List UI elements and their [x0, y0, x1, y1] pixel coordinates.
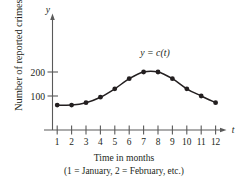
data-curve: [57, 71, 215, 105]
xtick-label: 6: [127, 137, 132, 147]
data-point: [112, 86, 117, 91]
caption-line-2: (1 = January, 2 = February, etc.): [0, 165, 248, 178]
xtick-label: 11: [197, 137, 206, 147]
ytick-label-200: 200: [31, 67, 46, 78]
data-point: [55, 103, 60, 108]
y-axis-title: Number of reported crimes: [14, 0, 25, 120]
xtick-label: 2: [69, 137, 74, 147]
y-axis-symbol: y: [45, 4, 51, 15]
ytick-label-100: 100: [31, 91, 46, 102]
data-point: [98, 95, 103, 100]
xtick-label: 10: [182, 137, 192, 147]
crime-rate-figure: 200 100 1 2 3 4 5 6 7 8 9: [0, 0, 248, 191]
data-point: [84, 100, 89, 105]
caption-line-1: Time in months: [0, 152, 248, 165]
x-axis-caption: Time in months (1 = January, 2 = Februar…: [0, 152, 248, 177]
curve-label: y = c(t): [139, 47, 169, 59]
xtick-label: 9: [170, 137, 175, 147]
data-point: [170, 76, 175, 81]
xtick-label: 12: [211, 137, 221, 147]
xtick-label: 4: [98, 137, 103, 147]
x-axis-tick-labels: 1 2 3 4 5 6 7 8 9 10 11 12: [55, 137, 221, 147]
data-point: [156, 70, 161, 75]
data-point: [141, 70, 146, 75]
x-axis-symbol: t: [232, 124, 235, 135]
xtick-label: 7: [141, 137, 146, 147]
data-point: [199, 94, 204, 99]
data-point: [127, 76, 132, 81]
data-point: [184, 86, 189, 91]
data-point: [69, 103, 74, 108]
xtick-label: 8: [156, 137, 161, 147]
xtick-label: 5: [112, 137, 117, 147]
data-point: [213, 100, 218, 105]
xtick-label: 1: [55, 137, 60, 147]
xtick-label: 3: [84, 137, 89, 147]
